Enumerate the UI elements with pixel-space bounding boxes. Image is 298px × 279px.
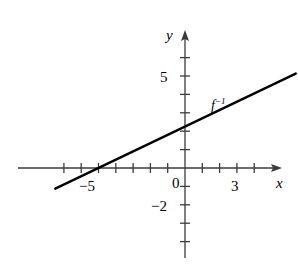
x-tick-label-minus-5: −5 — [79, 179, 95, 194]
y-tick-label-minus-2: −2 — [151, 199, 167, 214]
y-axis-label: y — [166, 28, 173, 43]
coordinate-plane — [0, 0, 298, 279]
x-axis-label: x — [276, 176, 283, 191]
x-tick-label-3: 3 — [231, 179, 239, 194]
graph-figure: x y −5 3 5 −2 0 f−1 — [0, 0, 298, 279]
function-line-f-inverse — [55, 74, 295, 189]
curve-label-exponent: −1 — [215, 96, 226, 106]
y-tick-label-5: 5 — [160, 70, 168, 85]
origin-label: 0 — [172, 176, 180, 191]
curve-label-f-inverse: f−1 — [211, 97, 225, 113]
